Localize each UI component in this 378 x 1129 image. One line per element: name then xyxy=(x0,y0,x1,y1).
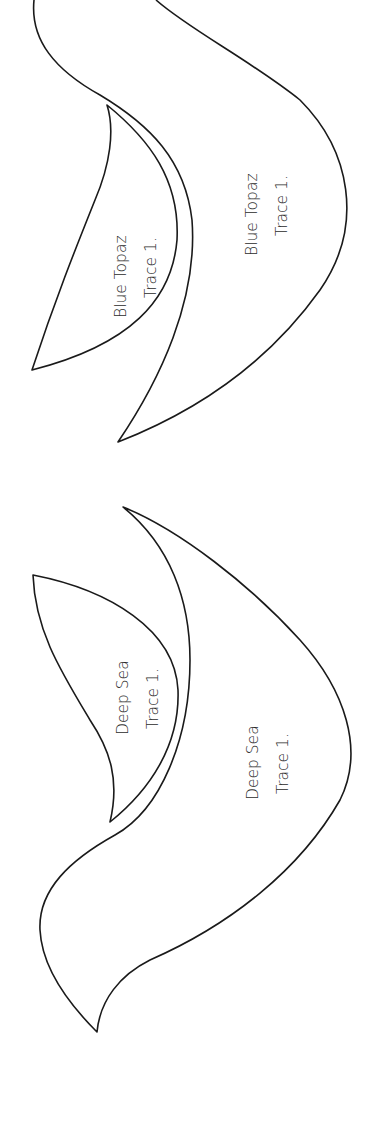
blue-topaz-large-piece xyxy=(34,0,347,442)
pattern-sheet: Blue Topaz Trace 1. Blue Topaz Trace 1. … xyxy=(0,0,378,1129)
blue-topaz-template-group: Blue Topaz Trace 1. Blue Topaz Trace 1. xyxy=(32,0,347,442)
deep-sea-template-group: Deep Sea Trace 1. Deep Sea Trace 1. xyxy=(33,507,351,1032)
deep-sea-large-piece xyxy=(40,507,351,1032)
